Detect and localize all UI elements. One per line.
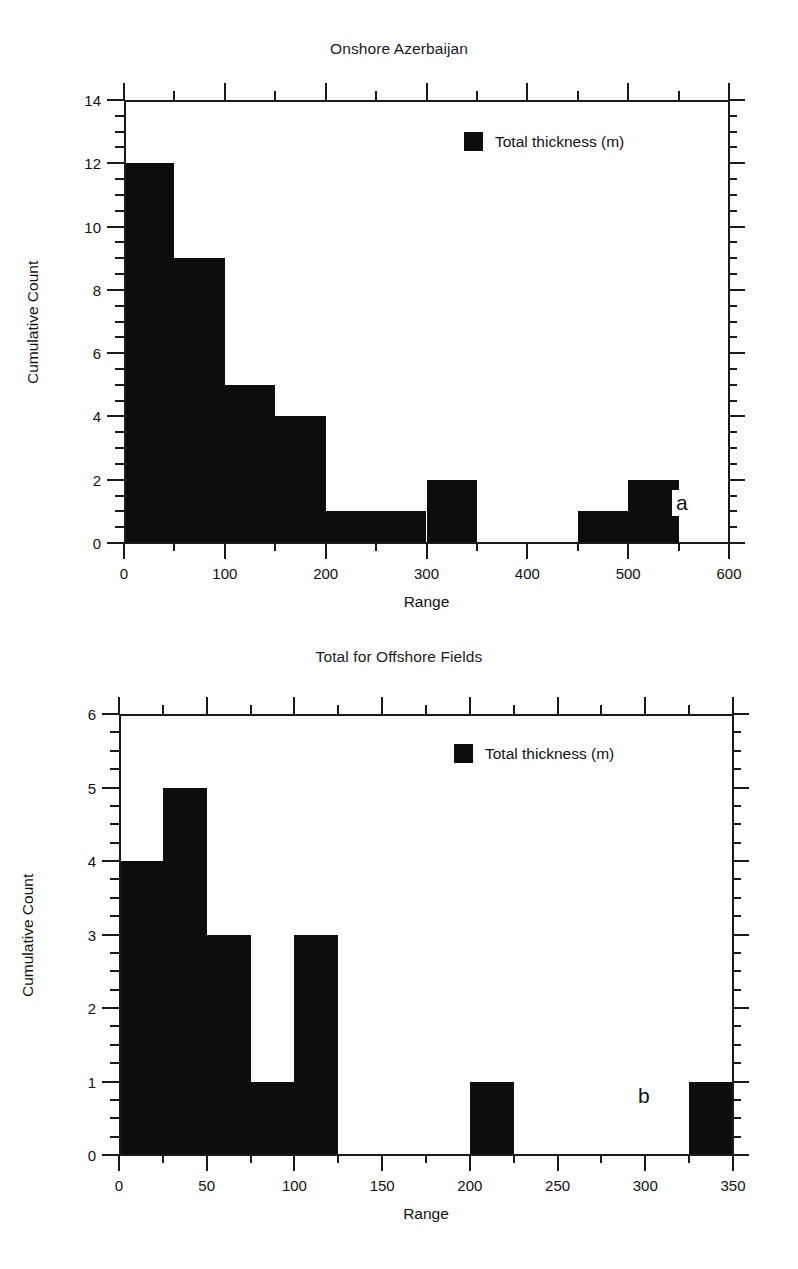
y-tick-minor bbox=[115, 194, 124, 196]
y-tick-minor bbox=[110, 805, 119, 807]
y-tick-minor bbox=[110, 823, 119, 825]
y-tick-major bbox=[102, 787, 119, 789]
x-tick-minor-top bbox=[678, 91, 680, 100]
x-tick-minor-top bbox=[577, 91, 579, 100]
y-tick-minor-right bbox=[732, 805, 741, 807]
y-tick-major bbox=[102, 713, 119, 715]
y-tick-minor bbox=[110, 952, 119, 954]
x-tick-major-top bbox=[325, 83, 327, 100]
x-tick-major bbox=[627, 542, 629, 559]
x-tick-minor bbox=[173, 542, 175, 551]
y-tick-major-right bbox=[728, 289, 745, 291]
y-tick-label: 6 bbox=[51, 706, 96, 723]
y-tick-minor-right bbox=[728, 321, 737, 323]
x-tick-minor-top bbox=[513, 705, 515, 714]
figure-root: Onshore Azerbaijan 010020030040050060002… bbox=[0, 0, 798, 1269]
x-tick-minor-top bbox=[274, 91, 276, 100]
axis-line-left bbox=[124, 100, 126, 544]
x-tick-major-top bbox=[224, 83, 226, 100]
y-tick-minor-right bbox=[732, 878, 741, 880]
x-tick-major bbox=[224, 542, 226, 559]
y-tick-minor-right bbox=[732, 1025, 741, 1027]
histogram-bar bbox=[275, 416, 325, 543]
x-tick-major-top bbox=[123, 83, 125, 100]
y-tick-label: 4 bbox=[51, 853, 96, 870]
histogram-bar bbox=[689, 1082, 733, 1156]
x-tick-major-top bbox=[293, 697, 295, 714]
x-tick-major-top bbox=[426, 83, 428, 100]
legend-swatch-total-thickness bbox=[464, 132, 483, 151]
y-tick-minor bbox=[115, 336, 124, 338]
x-tick-label: 300 bbox=[387, 565, 467, 582]
axis-line-bottom bbox=[119, 1154, 735, 1156]
x-tick-minor-top bbox=[173, 91, 175, 100]
y-tick-minor bbox=[110, 1044, 119, 1046]
y-axis-title: Cumulative Count bbox=[19, 873, 37, 996]
histogram-bar bbox=[578, 511, 628, 543]
y-tick-minor-right bbox=[732, 768, 741, 770]
y-tick-minor bbox=[110, 1062, 119, 1064]
y-tick-minor bbox=[115, 273, 124, 275]
y-tick-minor bbox=[115, 526, 124, 528]
x-tick-minor bbox=[678, 542, 680, 551]
x-tick-label: 200 bbox=[286, 565, 366, 582]
x-tick-major-top bbox=[381, 697, 383, 714]
x-tick-minor bbox=[250, 1154, 252, 1163]
x-tick-label: 350 bbox=[693, 1177, 773, 1194]
y-tick-label: 12 bbox=[56, 155, 101, 172]
y-tick-minor-right bbox=[732, 1062, 741, 1064]
x-tick-label: 250 bbox=[518, 1177, 598, 1194]
y-tick-minor-right bbox=[732, 970, 741, 972]
y-tick-minor bbox=[110, 915, 119, 917]
y-tick-major-right bbox=[728, 479, 745, 481]
x-tick-minor-top bbox=[688, 705, 690, 714]
x-tick-minor bbox=[375, 542, 377, 551]
x-tick-major bbox=[557, 1154, 559, 1171]
y-tick-minor bbox=[115, 321, 124, 323]
legend-label-total-thickness: Total thickness (m) bbox=[485, 745, 614, 763]
y-tick-minor-right bbox=[728, 210, 737, 212]
y-tick-major-right bbox=[732, 934, 749, 936]
y-tick-major-right bbox=[728, 415, 745, 417]
histogram-bar bbox=[470, 1082, 514, 1156]
x-tick-minor bbox=[513, 1154, 515, 1163]
y-tick-minor bbox=[110, 878, 119, 880]
y-axis-title: Cumulative Count bbox=[24, 260, 42, 383]
axis-line-top bbox=[124, 100, 729, 102]
y-tick-minor bbox=[115, 495, 124, 497]
y-tick-minor bbox=[110, 842, 119, 844]
x-tick-major bbox=[732, 1154, 734, 1171]
x-tick-major-top bbox=[627, 83, 629, 100]
y-tick-major-right bbox=[728, 542, 745, 544]
x-tick-label: 0 bbox=[79, 1177, 159, 1194]
y-tick-major-right bbox=[732, 860, 749, 862]
x-tick-minor-top bbox=[375, 91, 377, 100]
x-tick-label: 600 bbox=[689, 565, 769, 582]
y-tick-major bbox=[107, 352, 124, 354]
x-tick-minor-top bbox=[600, 705, 602, 714]
y-tick-major-right bbox=[732, 787, 749, 789]
x-tick-major bbox=[123, 542, 125, 559]
histogram-bar bbox=[119, 861, 163, 1155]
y-tick-minor-right bbox=[728, 463, 737, 465]
y-tick-minor-right bbox=[728, 241, 737, 243]
x-tick-minor-top bbox=[250, 705, 252, 714]
x-tick-minor-top bbox=[162, 705, 164, 714]
y-tick-minor bbox=[110, 989, 119, 991]
y-tick-major bbox=[102, 934, 119, 936]
y-tick-minor-right bbox=[732, 750, 741, 752]
panel-a: Onshore Azerbaijan 010020030040050060002… bbox=[0, 0, 798, 620]
y-tick-major bbox=[107, 162, 124, 164]
y-tick-minor-right bbox=[728, 400, 737, 402]
y-tick-major bbox=[102, 1081, 119, 1083]
y-tick-minor-right bbox=[732, 823, 741, 825]
y-tick-minor-right bbox=[732, 1044, 741, 1046]
x-tick-major-top bbox=[732, 697, 734, 714]
histogram-bar bbox=[427, 480, 477, 543]
y-tick-major-right bbox=[732, 1154, 749, 1156]
y-tick-major bbox=[102, 860, 119, 862]
y-tick-minor-right bbox=[728, 115, 737, 117]
y-tick-minor-right bbox=[728, 368, 737, 370]
y-tick-minor-right bbox=[728, 257, 737, 259]
y-tick-minor bbox=[110, 750, 119, 752]
